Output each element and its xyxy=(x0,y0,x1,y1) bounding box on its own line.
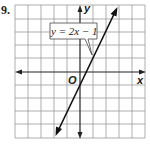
y-axis-label: y xyxy=(84,2,90,14)
x-axis-left-arrow-icon xyxy=(15,70,22,75)
equation-label: y = 2x − 1 xyxy=(51,25,97,37)
line-top-arrow-icon xyxy=(111,7,118,17)
y-axis-up-arrow-icon xyxy=(78,5,83,12)
x-axis-label: x xyxy=(137,74,143,86)
origin-label: O xyxy=(68,74,77,86)
line-bottom-arrow-icon xyxy=(56,127,63,137)
